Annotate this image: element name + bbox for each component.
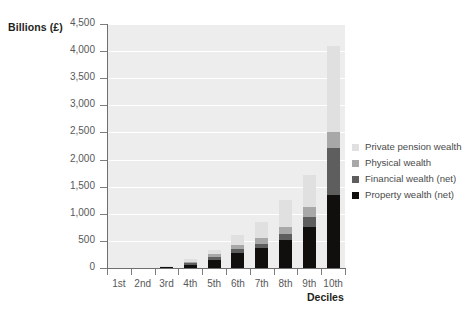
x-tick-label-2nd: 2nd	[134, 278, 151, 289]
legend-label: Physical wealth	[365, 158, 431, 168]
x-tick-mark	[345, 269, 346, 275]
bar-segment[interactable]	[327, 46, 340, 132]
legend-swatch-icon	[352, 144, 359, 151]
bar-segment[interactable]	[184, 265, 197, 268]
x-tick-label-1st: 1st	[112, 278, 125, 289]
bar-segment[interactable]	[327, 132, 340, 148]
chart-legend: Private pension wealthPhysical wealthFin…	[352, 139, 462, 203]
x-tick-mark	[131, 269, 132, 275]
bar-group[interactable]	[255, 222, 268, 268]
bar-group[interactable]	[327, 46, 340, 268]
x-tick-label-7th: 7th	[255, 278, 269, 289]
bar-segment[interactable]	[303, 175, 316, 208]
legend-swatch-icon	[352, 160, 359, 167]
bar-segment[interactable]	[279, 200, 292, 227]
x-tick-mark	[226, 269, 227, 275]
x-tick-mark	[297, 269, 298, 275]
bar-group[interactable]	[184, 259, 197, 268]
x-tick-label-3rd: 3rd	[159, 278, 173, 289]
legend-item[interactable]: Financial wealth (net)	[352, 171, 462, 187]
legend-item[interactable]: Property wealth (net)	[352, 187, 462, 203]
y-tick-mark	[100, 160, 107, 161]
bar-segment[interactable]	[303, 227, 316, 268]
bar-segment[interactable]	[303, 207, 316, 217]
y-tick-mark	[100, 51, 107, 52]
bar-group[interactable]	[231, 235, 244, 268]
legend-swatch-icon	[352, 176, 359, 183]
x-tick-mark	[250, 269, 251, 275]
y-tick-mark	[100, 24, 107, 25]
bar-segment[interactable]	[303, 217, 316, 227]
bar-group[interactable]	[160, 266, 173, 268]
y-tick-mark	[100, 187, 107, 188]
x-tick-label-9th: 9th	[302, 278, 316, 289]
x-tick-label-6th: 6th	[231, 278, 245, 289]
x-tick-mark	[274, 269, 275, 275]
legend-label: Private pension wealth	[365, 142, 462, 152]
bar-segment[interactable]	[255, 222, 268, 239]
bar-segment[interactable]	[160, 267, 173, 268]
x-tick-mark	[321, 269, 322, 275]
x-tick-label-10th: 10th	[323, 278, 342, 289]
legend-item[interactable]: Private pension wealth	[352, 139, 462, 155]
x-tick-label-4th: 4th	[183, 278, 197, 289]
y-tick-mark	[100, 78, 107, 79]
y-tick-mark	[100, 105, 107, 106]
x-tick-mark	[155, 269, 156, 275]
legend-label: Financial wealth (net)	[365, 174, 456, 184]
y-tick-mark	[100, 214, 107, 215]
y-tick-mark	[100, 241, 107, 242]
y-axis-title: Billions (£)	[8, 21, 63, 33]
x-tick-label-8th: 8th	[279, 278, 293, 289]
x-tick-mark	[107, 269, 108, 275]
y-tick-mark	[100, 132, 107, 133]
bar-segment[interactable]	[231, 253, 244, 268]
y-tick-mark	[100, 268, 107, 269]
bar-segment[interactable]	[279, 240, 292, 268]
wealth-by-decile-chart: Billions (£) 05001,0001,5002,0002,5003,0…	[0, 0, 476, 317]
bar-group[interactable]	[279, 200, 292, 268]
legend-item[interactable]: Physical wealth	[352, 155, 462, 171]
x-tick-label-5th: 5th	[207, 278, 221, 289]
x-tick-mark	[178, 269, 179, 275]
legend-swatch-icon	[352, 192, 359, 199]
bar-segment[interactable]	[255, 248, 268, 268]
bar-group[interactable]	[208, 250, 221, 268]
bar-segment[interactable]	[231, 235, 244, 245]
legend-label: Property wealth (net)	[365, 190, 454, 200]
x-tick-mark	[202, 269, 203, 275]
bar-segment[interactable]	[327, 148, 340, 196]
bar-segment[interactable]	[327, 195, 340, 268]
bar-segment[interactable]	[208, 260, 221, 268]
x-axis-title: Deciles	[307, 291, 344, 303]
bar-series-container	[107, 24, 345, 268]
bar-group[interactable]	[303, 175, 316, 268]
